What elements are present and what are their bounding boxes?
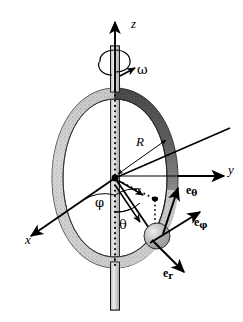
physics-figure: z y x ω R φ θ eθ eφ er [0, 0, 243, 322]
radius-label: R [136, 135, 144, 148]
e-r-subscript: r [168, 271, 173, 281]
y-axis-label: y [228, 163, 234, 176]
e-theta-subscript: θ [191, 188, 197, 198]
figure-canvas [0, 0, 243, 322]
phi-angle-label: φ [95, 196, 104, 209]
x-axis-label: x [25, 233, 31, 246]
e-theta-label: eθ [186, 184, 197, 198]
z-axis-label: z [131, 17, 136, 30]
e-phi-label: eφ [194, 216, 207, 230]
e-phi-subscript: φ [199, 220, 207, 230]
theta-angle-label: θ [119, 218, 127, 231]
e-r-label: er [163, 267, 173, 281]
omega-label: ω [137, 63, 148, 76]
